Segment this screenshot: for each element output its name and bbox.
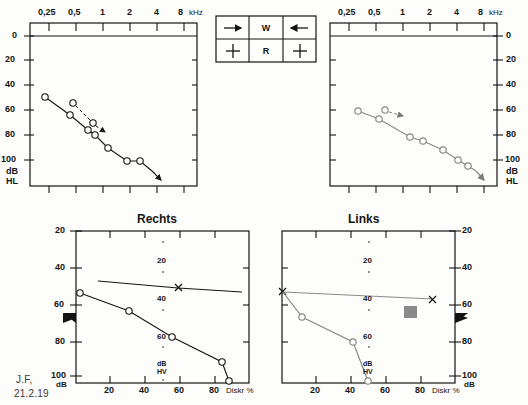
tone-audiogram-left-masked bbox=[382, 107, 403, 116]
speech-left-xaxis-unit: Diskr % bbox=[432, 387, 460, 395]
tone-right-yaxis-unit-2: HL bbox=[6, 177, 18, 186]
tone-left-xaxis-unit: kHz bbox=[489, 9, 503, 17]
speech-left-inner-label-2: 60 bbox=[363, 333, 372, 341]
tone-left-xtick-2: 1 bbox=[400, 8, 405, 17]
speech-left-yaxis-unit: dB bbox=[464, 381, 475, 389]
tone-left-yaxis-unit-2: HL bbox=[506, 177, 518, 186]
tone-left-ytick-0: 0 bbox=[506, 31, 511, 40]
speech-left-inner-label-1: 40 bbox=[363, 295, 372, 303]
tone-audiogram-right-curve bbox=[42, 94, 161, 180]
legend-row-0-label: W bbox=[249, 16, 283, 39]
speech-right-xtick-3: 80 bbox=[209, 386, 219, 395]
speech-audiogram-left-x-curve bbox=[279, 288, 436, 303]
tone-left-xtick-0: 0,25 bbox=[338, 8, 356, 17]
speech-right-ytick-1: 40 bbox=[55, 263, 65, 272]
speech-right-inner-unit-2: HV bbox=[157, 368, 167, 375]
tone-left-ytick-3: 60 bbox=[506, 105, 516, 114]
speech-right-xaxis-unit: Diskr % bbox=[226, 387, 254, 395]
tone-left-xtick-1: 0,5 bbox=[368, 8, 381, 17]
tone-right-xtick-5: 8 bbox=[178, 8, 183, 17]
speech-right-ytick-4: 100 bbox=[51, 371, 66, 380]
speech-left-title: Links bbox=[348, 213, 379, 225]
speech-left-ytick-4: 100 bbox=[462, 371, 477, 380]
tone-left-ytick-5: 100 bbox=[505, 155, 520, 164]
tone-right-ytick-1: 20 bbox=[5, 55, 15, 64]
tone-right-ytick-3: 60 bbox=[5, 105, 15, 114]
speech-left-xtick-3: 80 bbox=[415, 386, 425, 395]
speech-audiogram-right-x-curve bbox=[98, 281, 242, 292]
speech-right-ytick-0: 20 bbox=[55, 226, 65, 235]
tone-audiogram-right-frame bbox=[24, 23, 197, 193]
speech-right-ytick-3: 80 bbox=[55, 337, 65, 346]
speech-right-inner-unit-1: dB bbox=[157, 360, 166, 367]
speech-left-xtick-0: 20 bbox=[310, 386, 320, 395]
tone-left-xtick-5: 8 bbox=[478, 8, 483, 17]
speech-audiogram-left-circle-curve bbox=[283, 292, 371, 384]
tone-left-yaxis-unit-1: dB bbox=[506, 167, 518, 176]
tone-right-xtick-1: 0,5 bbox=[68, 8, 81, 17]
speech-left-inner-label-0: 20 bbox=[363, 257, 372, 265]
patient-date: 21.2.19 bbox=[14, 388, 49, 399]
speech-left-ytick-3: 80 bbox=[462, 337, 472, 346]
speech-left-inner-unit-2: HV bbox=[363, 368, 373, 375]
patient-initials: J.F, bbox=[16, 374, 32, 385]
tone-right-xtick-4: 4 bbox=[154, 8, 159, 17]
tone-right-ytick-5: 100 bbox=[1, 155, 16, 164]
tone-right-xaxis-unit: kHz bbox=[189, 9, 203, 17]
legend-row-1-label: R bbox=[249, 39, 283, 62]
speech-audiogram-left-frame bbox=[282, 231, 468, 383]
speech-right-title: Rechts bbox=[137, 213, 177, 225]
tone-left-xtick-4: 4 bbox=[454, 8, 459, 17]
speech-audiogram-right-circle-curve bbox=[77, 290, 232, 384]
speech-right-inner-label-0: 20 bbox=[157, 257, 166, 265]
speech-right-ytick-2: 60 bbox=[54, 300, 64, 309]
speech-right-inner-label-1: 40 bbox=[157, 295, 166, 303]
speech-left-xtick-1: 40 bbox=[345, 386, 355, 395]
speech-right-xtick-1: 40 bbox=[139, 386, 149, 395]
tone-right-ytick-0: 0 bbox=[12, 31, 17, 40]
speech-left-ytick-1: 40 bbox=[462, 263, 472, 272]
tone-left-ytick-4: 80 bbox=[506, 130, 516, 139]
gray-square-marker bbox=[404, 306, 417, 318]
tone-right-ytick-2: 40 bbox=[5, 80, 15, 89]
speech-right-inner-label-2: 60 bbox=[157, 333, 166, 341]
speech-left-ytick-2: 60 bbox=[462, 300, 472, 309]
tone-left-xtick-3: 2 bbox=[427, 8, 432, 17]
tone-audiogram-left-curve bbox=[355, 108, 484, 180]
speech-left-xtick-2: 60 bbox=[380, 386, 390, 395]
tone-right-xtick-3: 2 bbox=[127, 8, 132, 17]
tone-right-xtick-2: 1 bbox=[100, 8, 105, 17]
tone-left-ytick-1: 20 bbox=[506, 55, 516, 64]
speech-left-ytick-0: 20 bbox=[462, 226, 472, 235]
speech-right-yaxis-unit: dB bbox=[56, 381, 67, 389]
speech-right-xtick-2: 60 bbox=[174, 386, 184, 395]
tone-right-xtick-0: 0,25 bbox=[38, 8, 56, 17]
audiogram-sheet: 0,25 0,5 1 2 4 8 kHz 0 20 40 60 80 100 d… bbox=[0, 0, 528, 405]
speech-right-xtick-0: 20 bbox=[104, 386, 114, 395]
tone-left-ytick-2: 40 bbox=[506, 80, 516, 89]
speech-left-inner-unit-1: dB bbox=[363, 360, 372, 367]
tone-right-yaxis-unit-1: dB bbox=[6, 167, 18, 176]
tone-right-ytick-4: 80 bbox=[5, 130, 15, 139]
